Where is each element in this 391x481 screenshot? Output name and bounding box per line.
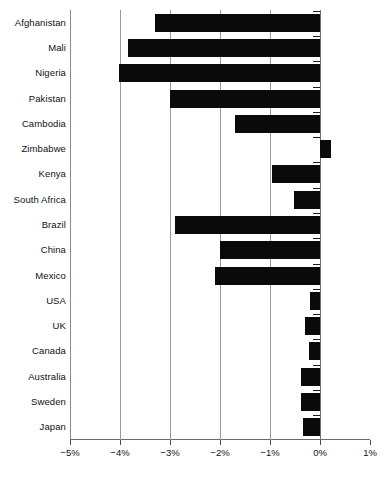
xtick-label-neg4: −4%	[100, 447, 140, 458]
row-tick	[313, 112, 320, 113]
plot-area	[70, 10, 370, 440]
bar-uk	[305, 317, 320, 335]
row-tick	[313, 61, 320, 62]
bar-brazil	[175, 216, 320, 234]
bar-cambodia	[235, 115, 320, 133]
xtick-label-neg1: −1%	[250, 447, 290, 458]
row-tick	[313, 264, 320, 265]
bar-mexico	[215, 267, 320, 285]
row-tick	[313, 415, 320, 416]
category-label-usa: USA	[0, 296, 66, 306]
xtick-label-neg2: −2%	[200, 447, 240, 458]
category-label-mexico: Mexico	[0, 271, 66, 281]
bar-afghanistan	[155, 14, 320, 32]
xtick-neg3	[170, 440, 171, 445]
category-label-nigeria: Nigeria	[0, 68, 66, 78]
bar-nigeria	[119, 64, 320, 82]
row-tick	[313, 390, 320, 391]
plot-left-border	[70, 10, 71, 440]
caption-sliver	[4, 474, 387, 481]
bar-usa	[310, 292, 320, 310]
bar-mali	[128, 39, 320, 57]
bar-pakistan	[170, 90, 320, 108]
bar-chart: AfghanistanMaliNigeriaPakistanCambodiaZi…	[0, 0, 391, 481]
category-label-canada: Canada	[0, 346, 66, 356]
row-tick	[313, 339, 320, 340]
row-tick	[313, 365, 320, 366]
gridline-0	[320, 10, 321, 440]
value-axis: −5%−4%−3%−2%−1%0%1%	[70, 440, 370, 470]
category-label-south-africa: South Africa	[0, 195, 66, 205]
bar-south-africa	[294, 191, 320, 209]
category-label-brazil: Brazil	[0, 220, 66, 230]
category-label-sweden: Sweden	[0, 397, 66, 407]
row-tick	[313, 137, 320, 138]
row-tick	[313, 36, 320, 37]
row-tick	[313, 314, 320, 315]
xtick-neg1	[270, 440, 271, 445]
xtick-0	[320, 440, 321, 445]
row-tick	[313, 188, 320, 189]
xtick-label-neg3: −3%	[150, 447, 190, 458]
xtick-label-0: 0%	[300, 447, 340, 458]
bar-japan	[303, 418, 320, 436]
xtick-neg5	[70, 440, 71, 445]
row-tick	[313, 87, 320, 88]
category-label-cambodia: Cambodia	[0, 119, 66, 129]
row-tick	[313, 213, 320, 214]
category-label-kenya: Kenya	[0, 169, 66, 179]
xtick-label-neg5: −5%	[50, 447, 90, 458]
category-label-pakistan: Pakistan	[0, 94, 66, 104]
category-axis-labels: AfghanistanMaliNigeriaPakistanCambodiaZi…	[0, 10, 66, 440]
row-tick	[313, 238, 320, 239]
bar-canada	[309, 342, 320, 360]
category-label-japan: Japan	[0, 422, 66, 432]
bar-zimbabwe	[320, 140, 331, 158]
category-label-china: China	[0, 245, 66, 255]
xtick-neg4	[120, 440, 121, 445]
bar-australia	[301, 368, 320, 386]
xtick-label-1: 1%	[350, 447, 390, 458]
row-tick	[313, 11, 320, 12]
category-label-uk: UK	[0, 321, 66, 331]
row-tick	[313, 289, 320, 290]
row-tick	[313, 162, 320, 163]
category-label-australia: Australia	[0, 372, 66, 382]
category-label-mali: Mali	[0, 43, 66, 53]
bar-china	[220, 241, 320, 259]
category-label-afghanistan: Afghanistan	[0, 18, 66, 28]
bar-kenya	[272, 165, 320, 183]
xtick-neg2	[220, 440, 221, 445]
category-label-zimbabwe: Zimbabwe	[0, 144, 66, 154]
xtick-1	[370, 440, 371, 445]
bar-sweden	[301, 393, 320, 411]
